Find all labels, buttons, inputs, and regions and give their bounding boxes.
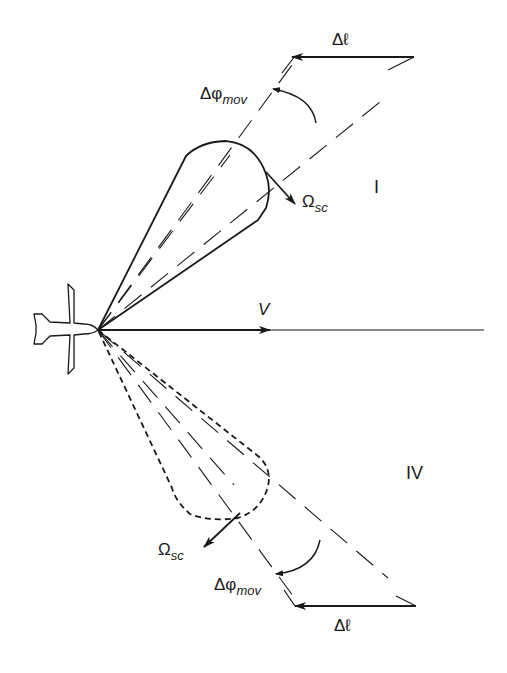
upper-beam-lobe (98, 141, 269, 330)
quadrant-label-lower: IV (406, 463, 423, 484)
lower-dl-left-tick (284, 590, 295, 606)
velocity-label: V (258, 300, 269, 320)
upper-omega-arrow (266, 172, 295, 204)
dphi-label-lower: Δφmov (214, 575, 261, 595)
aircraft-icon (34, 284, 98, 374)
quadrant-label-upper: I (374, 177, 379, 198)
lower-dphi-arc (276, 540, 320, 574)
dl-label-lower: Δℓ (334, 616, 351, 636)
omega-label-upper: Ωsc (302, 192, 328, 212)
upper-dl-right-tick (388, 57, 414, 70)
dl-label-upper: Δℓ (332, 30, 349, 50)
lower-beam-centerlines (98, 330, 388, 600)
omega-label-lower: Ωsc (158, 540, 184, 560)
upper-dphi-arc (273, 89, 316, 123)
dphi-label-upper: Δφmov (200, 84, 247, 104)
lower-dl-right-tick (396, 596, 416, 606)
beam-geometry-svg (0, 0, 507, 673)
diagram-canvas: V I IV Ωsc Ωsc Δφmov Δφmov Δℓ Δℓ (0, 0, 507, 673)
